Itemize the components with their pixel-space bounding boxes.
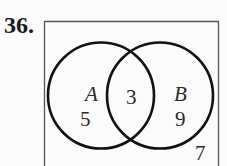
circle-a (48, 43, 154, 149)
outside-count: 7 (195, 141, 206, 165)
set-b-label: B (174, 82, 187, 106)
venn-diagram: A 5 3 B 9 7 (0, 0, 227, 166)
intersection-count: 3 (126, 85, 137, 109)
circle-b (107, 43, 213, 149)
set-a-label: A (83, 82, 98, 106)
set-a-only-count: 5 (80, 107, 91, 131)
set-b-only-count: 9 (175, 107, 186, 131)
